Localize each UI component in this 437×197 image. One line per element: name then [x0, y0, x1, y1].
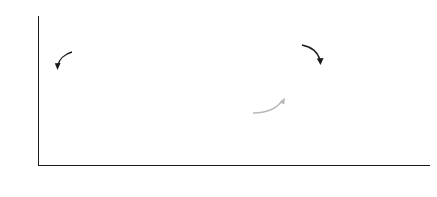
chart-container — [0, 0, 437, 197]
chart-background — [0, 0, 437, 197]
footprint-biocapacity-chart — [0, 0, 437, 197]
